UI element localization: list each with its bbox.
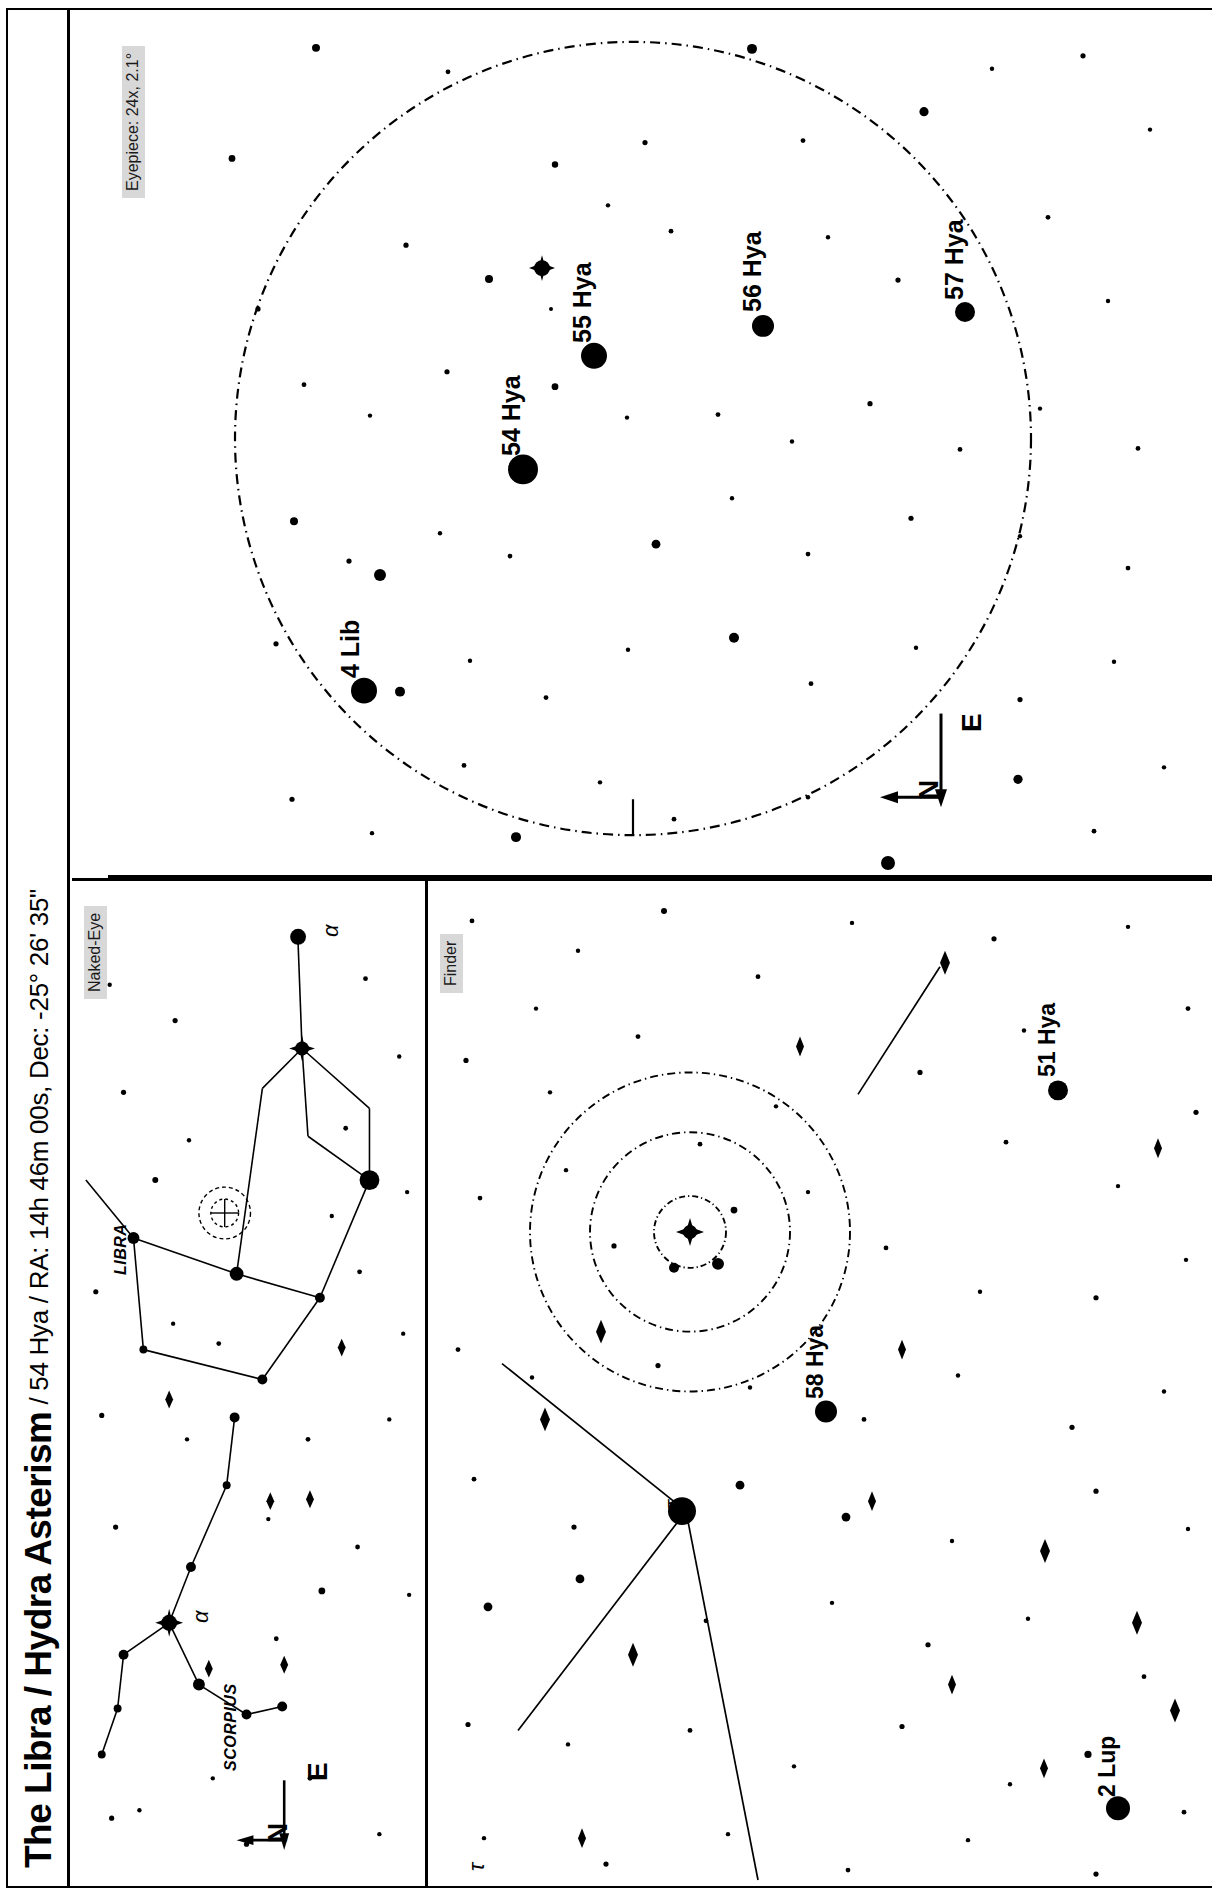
page-title: The Libra / Hydra Asterism xyxy=(18,1412,60,1869)
naked-eye-faint-stars xyxy=(93,976,411,1846)
star-51-hya xyxy=(1048,1080,1068,1100)
label-tau-librae: τ xyxy=(464,1863,490,1871)
constellation-label-scorpius: SCORPIUS xyxy=(222,1683,240,1771)
label-57-hya: 57 Hya xyxy=(940,219,969,300)
label-58-hya: 58 Hya xyxy=(802,1325,829,1399)
star-57-hya xyxy=(955,302,975,322)
star-2-lup xyxy=(1106,1796,1130,1820)
eyepiece-caption: Eyepiece: 24x, 2.1° xyxy=(122,46,145,198)
eyepiece-faint-stars xyxy=(229,44,1212,870)
compass-north-label: N xyxy=(913,780,945,800)
finder-center-cluster xyxy=(669,1207,737,1273)
eyepiece-fov-circle xyxy=(235,42,1031,835)
page-subtitle: / 54 Hya / RA: 14h 46m 00s, Dec: -25° 26… xyxy=(24,889,55,1404)
label-alpha-librae: α xyxy=(318,924,344,937)
naked-eye-diamond-stars xyxy=(165,1339,345,1678)
naked-eye-bright-stars xyxy=(98,929,380,1759)
label-4-lib: 4 Lib xyxy=(336,620,365,678)
star-chart-page: The Libra / Hydra Asterism / 54 Hya / RA… xyxy=(0,0,1220,1894)
naked-eye-east-label: E xyxy=(302,1762,334,1781)
star-alpha-librae xyxy=(290,929,306,945)
eyepiece-starfield xyxy=(108,10,1212,875)
star-4-lib xyxy=(351,678,377,704)
panel-eyepiece-frame: Eyepiece: 24x, 2.1° 4 Lib 54 Hya 55 Hya … xyxy=(108,10,1212,878)
page-title-bar: The Libra / Hydra Asterism / 54 Hya / RA… xyxy=(8,10,70,1886)
panel-finder: Finder 51 Hya 58 Hya 2 Lup σ τ xyxy=(428,878,1212,1886)
naked-eye-caption: Naked-Eye xyxy=(84,906,107,999)
constellation-lines xyxy=(86,943,370,1755)
star-55-hya xyxy=(581,343,607,369)
star-antares xyxy=(155,1609,183,1637)
star-58-hya xyxy=(815,1400,837,1422)
label-55-hya: 55 Hya xyxy=(568,262,597,343)
star-54-hya xyxy=(508,454,538,484)
label-51-hya: 51 Hya xyxy=(1034,1003,1061,1077)
compass-east-label: E xyxy=(956,713,988,732)
label-sigma-librae: σ xyxy=(660,1500,686,1513)
panel-naked-eye: Naked-Eye LIBRA SCORPIUS α α N E xyxy=(72,878,428,1886)
star-sparkle-1 xyxy=(529,255,555,281)
label-2-lup: 2 Lup xyxy=(1094,1736,1121,1797)
finder-diamond-stars xyxy=(540,951,1180,1848)
finder-bright-stars xyxy=(668,1080,1130,1820)
naked-eye-starfield xyxy=(72,881,425,1886)
eyepiece-bright-stars xyxy=(351,255,975,703)
label-alpha-scorpii: α xyxy=(188,1610,214,1623)
finder-caption: Finder xyxy=(440,934,463,993)
label-56-hya: 56 Hya xyxy=(738,231,767,312)
naked-eye-north-label: N xyxy=(262,1823,294,1843)
star-56-hya xyxy=(752,315,774,337)
star-beta-librae xyxy=(360,1170,380,1190)
constellation-label-libra: LIBRA xyxy=(112,1224,130,1275)
label-54-hya: 54 Hya xyxy=(497,375,526,456)
